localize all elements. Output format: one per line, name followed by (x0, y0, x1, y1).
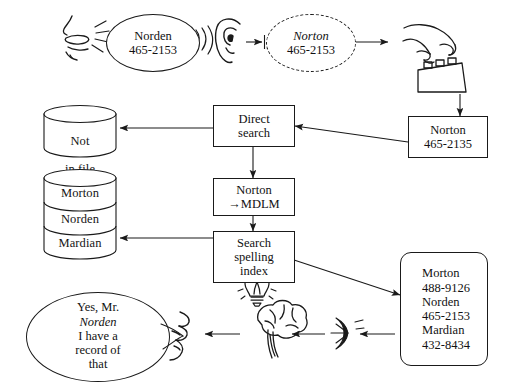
typed-entry-number: 465-2135 (424, 137, 472, 151)
file-stack-cylinders: Morton Norden Mardian (40, 168, 120, 260)
spelling-index-box[interactable]: Search spelling index (213, 231, 295, 283)
heard-number: 465-2153 (287, 43, 335, 57)
ear-icon (216, 19, 240, 63)
reply-line1: Yes, Mr. (75, 300, 120, 314)
spoken-number: 465-2153 (129, 43, 177, 57)
file-stack-label-0: Morton (40, 186, 120, 200)
brain-icon (258, 301, 307, 359)
not-in-file-cylinder: Not in file (40, 104, 120, 158)
direct-search-line2: search (238, 126, 270, 140)
heard-name-bubble: Norton 465-2153 (266, 14, 356, 72)
results-box[interactable]: Morton 488-9126 Norden 465-2153 Mardian … (400, 252, 488, 366)
reply-line4: record of (75, 343, 120, 357)
result-2-name: Mardian (422, 323, 470, 337)
heard-name: Norton (287, 29, 335, 43)
spelling-index-line3: index (234, 264, 274, 278)
reply-line5: that (75, 357, 120, 371)
spoken-name: Norden (129, 29, 177, 43)
normalize-line1: Norton (228, 183, 279, 197)
direct-search-box[interactable]: Direct search (213, 105, 295, 147)
spelling-index-line2: spelling (234, 250, 274, 264)
mouth-speaking-icon (63, 16, 109, 60)
reading-eye-icon (331, 318, 364, 349)
result-0-name: Morton (422, 266, 470, 280)
spelling-index-line1: Search (234, 236, 274, 250)
reply-line2: Norden (75, 315, 120, 329)
spoken-name-bubble: Norden 465-2153 (106, 14, 200, 72)
result-1-name: Norden (422, 295, 470, 309)
file-stack-label-1: Norden (40, 212, 120, 226)
normalize-box[interactable]: Norton →MDLM (213, 178, 295, 216)
direct-search-line1: Direct (238, 112, 270, 126)
speech-bubble-tail (160, 318, 186, 352)
reply-line3: I have a (75, 329, 120, 343)
typed-entry-name: Norton (424, 123, 472, 137)
typed-entry-box[interactable]: Norton 465-2135 (408, 116, 488, 158)
file-stack-label-2: Mardian (40, 236, 120, 250)
result-2-number: 432-8434 (422, 338, 470, 352)
normalize-line2: →MDLM (228, 197, 279, 211)
result-0-number: 488-9126 (422, 281, 470, 295)
hand-typing-keyboard-icon (403, 25, 466, 92)
retrieval-flow-diagram: Norden 465-2153 Norton 465-2153 Not in f… (0, 0, 505, 391)
result-1-number: 465-2153 (422, 309, 470, 323)
reply-speech-bubble: Yes, Mr. Norden I have a record of that (26, 292, 170, 382)
